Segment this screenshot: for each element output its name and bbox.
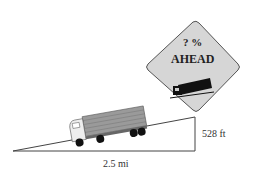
vertical-rise-label: 528 ft bbox=[202, 128, 226, 139]
sign-ahead-text: AHEAD bbox=[171, 52, 214, 67]
sign-percent-text: ? % bbox=[183, 36, 202, 48]
truck-icon bbox=[68, 106, 148, 148]
grade-diagram bbox=[0, 0, 255, 174]
horizontal-distance-label: 2.5 mi bbox=[103, 158, 129, 169]
